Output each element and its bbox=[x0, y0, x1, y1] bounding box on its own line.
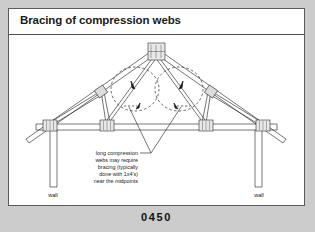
top-chord-right-end bbox=[283, 139, 286, 143]
page-title: Bracing of compression webs bbox=[20, 14, 181, 26]
annotation-block: long compression webs may require bracin… bbox=[94, 150, 139, 184]
wall-label-left: wall bbox=[47, 192, 58, 198]
annotation-line-3: bracing (typically bbox=[98, 164, 138, 170]
web-right-diag-b bbox=[202, 92, 208, 123]
web-right-long-a bbox=[158, 56, 208, 124]
web-right-outer-b bbox=[209, 94, 260, 125]
web-right-long-b bbox=[155, 57, 204, 124]
web-left-long-a bbox=[104, 56, 154, 124]
truss-diagram: long compression webs may require bracin… bbox=[9, 35, 304, 205]
web-left-outer-b bbox=[52, 94, 103, 125]
annotation-line-5: near the midpoints bbox=[94, 178, 139, 184]
annotation-line-4: done with 1x4's) bbox=[99, 171, 138, 177]
top-chord-left-end bbox=[26, 139, 29, 143]
annotation-line-1: long compression bbox=[96, 150, 138, 156]
web-left-outer-a bbox=[49, 91, 101, 123]
footer: 0450 bbox=[8, 206, 305, 232]
page-number: 0450 bbox=[8, 211, 305, 223]
page-root: Bracing of compression webs bbox=[0, 0, 315, 232]
annotation-line-2: webs may require bbox=[94, 157, 138, 163]
web-left-diag-b bbox=[104, 92, 110, 123]
web-right-outer-a bbox=[211, 91, 263, 123]
wall-label-right: wall bbox=[253, 192, 264, 198]
figure-panel: Bracing of compression webs bbox=[8, 8, 305, 206]
title-bar: Bracing of compression webs bbox=[9, 9, 304, 35]
